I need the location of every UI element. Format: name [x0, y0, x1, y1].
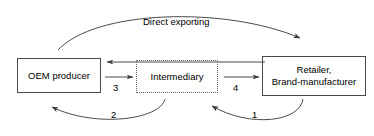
node-oem-producer[interactable]: OEM producer: [17, 58, 101, 93]
edge-2-arc: [52, 99, 165, 119]
node-retailer-brand-manufacturer[interactable]: Retailer, Brand-manufacturer: [262, 56, 366, 96]
node-intermediary-label: Intermediary: [151, 71, 204, 82]
node-retailer-brand-manufacturer-label: Retailer, Brand-manufacturer: [272, 64, 356, 88]
node-intermediary[interactable]: Intermediary: [136, 60, 218, 93]
node-oem-producer-label: OEM producer: [28, 70, 90, 81]
edge-label-2: 2: [111, 109, 116, 120]
edge-label-3: 3: [113, 82, 118, 93]
edge-1-arc: [212, 99, 303, 120]
edge-label-direct-exporting: Direct exporting: [143, 16, 210, 27]
edge-label-1: 1: [252, 109, 257, 120]
diagram-canvas: OEM producer Intermediary Retailer, Bran…: [0, 0, 374, 136]
edge-label-4: 4: [233, 82, 238, 93]
